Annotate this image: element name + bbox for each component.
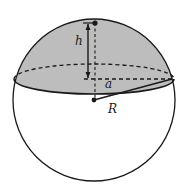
cap-region [14,0,174,94]
label-h: h [75,34,83,48]
spherical-cap-diagram: h a R [0,0,186,194]
center-point [92,98,97,103]
top-point [92,20,97,25]
label-R: R [107,102,117,116]
label-a: a [105,77,112,91]
